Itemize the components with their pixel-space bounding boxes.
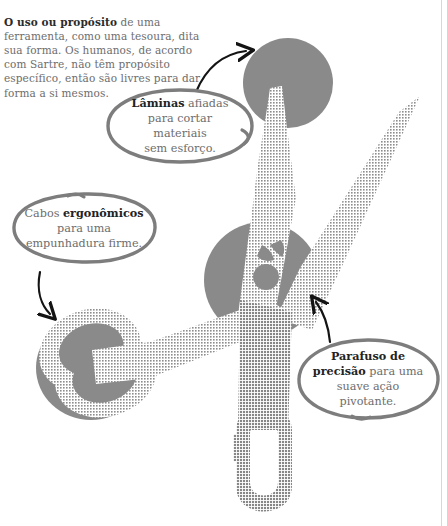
intro-lead: O uso ou propósito bbox=[4, 16, 117, 28]
callout-screw-text: Parafuso de precisão para uma suave ação… bbox=[294, 336, 442, 422]
callout-blades-line2: para cortar materiais bbox=[122, 111, 238, 141]
callout-handles-lead: ergonômicos bbox=[63, 206, 144, 220]
callout-screw: Parafuso de precisão para uma suave ação… bbox=[294, 336, 442, 422]
callout-handles: Cabos ergonômicos para uma empunhadura f… bbox=[8, 190, 160, 266]
callout-screw-lead: Parafuso de bbox=[331, 349, 405, 363]
callout-screw-lead2: precisão bbox=[313, 364, 366, 378]
callout-handles-line2: para uma bbox=[57, 221, 111, 236]
arrow-to-handles bbox=[39, 272, 50, 314]
scissor-blades bbox=[236, 86, 420, 330]
intro-paragraph: O uso ou propósito de uma ferramenta, co… bbox=[4, 15, 204, 100]
callout-blades-line3: sem esforço. bbox=[144, 141, 215, 156]
callout-handles-line3: empunhadura firme. bbox=[26, 236, 142, 251]
callout-screw-rest: para uma bbox=[366, 365, 423, 378]
callout-handles-text: Cabos ergonômicos para uma empunhadura f… bbox=[8, 190, 160, 266]
illustrated-page: Lâminas afiadas para cortar materiais se… bbox=[0, 0, 447, 526]
right-edge-rule bbox=[441, 0, 442, 526]
callout-handles-pre: Cabos bbox=[25, 207, 63, 220]
callout-screw-line4: pivotante. bbox=[340, 394, 397, 409]
callout-screw-line3: suave ação bbox=[337, 379, 399, 394]
